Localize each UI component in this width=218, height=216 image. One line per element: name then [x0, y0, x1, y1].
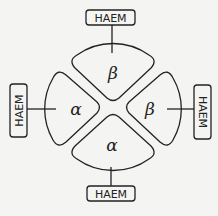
haem-label-bottom: HAEM	[95, 188, 127, 201]
subunit-label-left: α	[70, 99, 82, 119]
haem-label-right: HAEM	[196, 96, 209, 128]
haem-label-top: HAEM	[94, 12, 126, 25]
haemoglobin-diagram: β β α α HAEM HAEM HAEM HAEM	[0, 0, 218, 216]
haem-label-left: HAEM	[13, 94, 26, 126]
subunit-label-right: β	[144, 99, 155, 119]
subunit-label-bottom: α	[106, 135, 118, 155]
subunit-label-top: β	[107, 63, 118, 83]
